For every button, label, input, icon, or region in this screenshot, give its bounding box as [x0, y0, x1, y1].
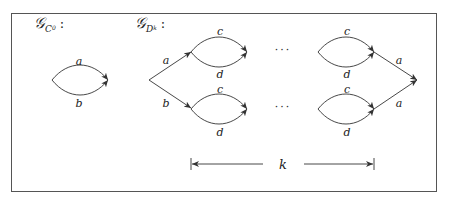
- edge-label-start-a: a: [163, 55, 170, 66]
- title-subsubscript: k: [153, 24, 157, 31]
- title-colon: :: [60, 16, 64, 31]
- graph-edges: [0, 0, 449, 204]
- edge-label-c: c: [344, 26, 350, 37]
- edge-label-b: b: [75, 98, 82, 109]
- title-subscript: C: [45, 24, 52, 34]
- title-symbol: 𝒢: [135, 14, 146, 32]
- edge-dk-start-b: [149, 80, 191, 108]
- edge-label-end-a: a: [396, 98, 403, 109]
- edge-label-a: a: [76, 56, 83, 67]
- edge-label-c: c: [217, 26, 223, 37]
- title-symbol: 𝒢: [34, 14, 45, 32]
- edge-label-c: c: [344, 84, 350, 95]
- edge-label-d: d: [343, 127, 350, 138]
- edge-c0-b: [52, 80, 108, 95]
- edge-label-c: c: [217, 84, 223, 95]
- ellipsis-lower: ···: [275, 101, 292, 114]
- graph-dk-title: 𝒢Dk:: [135, 16, 165, 34]
- diagram-canvas: 𝒢C0: 𝒢Dk: a b a b c d c d c d c d a a ··…: [0, 0, 449, 204]
- edge-label-start-b: b: [162, 98, 169, 109]
- edge-label-d: d: [343, 69, 350, 80]
- ellipsis-upper: ···: [275, 44, 292, 57]
- title-subsubscript: 0: [52, 24, 56, 31]
- edge-dk-start-a: [149, 52, 191, 80]
- graph-c0-title: 𝒢C0:: [34, 16, 64, 34]
- edge-label-d: d: [216, 127, 223, 138]
- edge-label-end-a: a: [396, 55, 403, 66]
- edge-label-d: d: [216, 69, 223, 80]
- span-label-k: k: [279, 158, 287, 171]
- title-colon: :: [161, 16, 165, 31]
